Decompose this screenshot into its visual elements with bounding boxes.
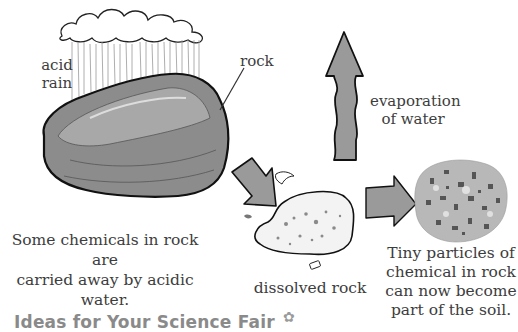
evaporation-label: evaporation of water [370,92,456,128]
left-caption: Some chemicals in rock are carried away … [0,230,210,310]
right-caption-line2: chemical in rock [384,263,518,282]
rock-label: rock [240,52,274,70]
acid-rain-label-line1: acid [36,56,78,74]
footer-title: Ideas for Your Science Fair ✿ [14,312,295,332]
dissolved-rock-label: dissolved rock [246,278,374,298]
right-caption: Tiny particles of chemical in rock can n… [384,244,518,320]
acid-rain-label: acid rain [36,56,78,92]
evaporation-label-line2: of water [370,110,456,128]
right-caption-line1: Tiny particles of [384,244,518,263]
flower-icon: ✿ [283,309,295,325]
evaporation-label-line1: evaporation [370,92,456,110]
left-caption-line1: Some chemicals in rock are [0,230,210,270]
footer-title-text: Ideas for Your Science Fair [14,312,275,332]
acid-rain-label-line2: rain [36,74,78,92]
right-caption-line4: part of the soil. [384,301,518,320]
right-caption-line3: can now become [384,282,518,301]
left-caption-line2: carried away by acidic water. [0,270,210,310]
